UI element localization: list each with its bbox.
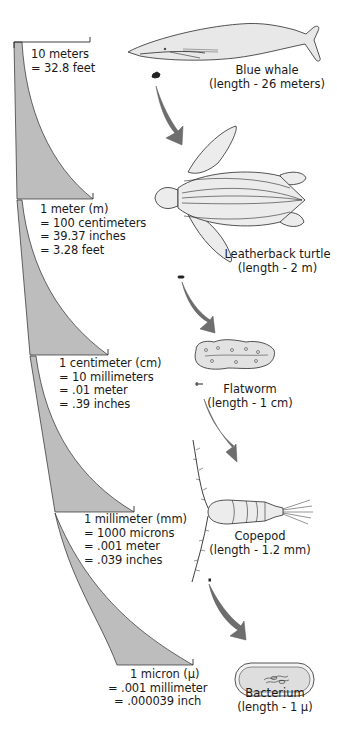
scale-label-10m: 10 meters = 32.8 feet bbox=[31, 48, 95, 75]
scale-label-line: 1 millimeter (mm) bbox=[84, 513, 187, 527]
mini-turtle-icon bbox=[152, 72, 160, 78]
organism-length: (length - 2 m) bbox=[220, 262, 335, 276]
mini-copepod-icon bbox=[195, 382, 203, 386]
flatworm-illustration bbox=[195, 340, 274, 370]
arrow-whale-to-turtle bbox=[156, 86, 183, 145]
scale-label-line: 1 centimeter (cm) bbox=[59, 357, 161, 371]
scaled-markers bbox=[152, 72, 210, 581]
caption-flatworm: Flatworm (length - 1 cm) bbox=[205, 383, 295, 410]
caption-blue-whale: Blue whale (length - 26 meters) bbox=[202, 64, 332, 91]
diagram-graphics bbox=[0, 0, 337, 730]
scale-label-1cm: 1 centimeter (cm) = 10 millimeters = .01… bbox=[59, 357, 161, 411]
arrow-turtle-to-flatworm bbox=[182, 282, 215, 333]
scale-label-line: = 10 millimeters bbox=[59, 371, 161, 385]
scale-label-line: = 32.8 feet bbox=[31, 62, 95, 76]
organism-length: (length - 1.2 mm) bbox=[205, 544, 315, 558]
copepod-illustration bbox=[192, 440, 313, 582]
leatherback-turtle-illustration bbox=[155, 126, 306, 262]
caption-leatherback-turtle: Leatherback turtle (length - 2 m) bbox=[220, 248, 335, 275]
scale-label-line: = .01 meter bbox=[59, 384, 161, 398]
mini-flatworm-icon bbox=[178, 276, 184, 278]
scale-label-line: = .001 millimeter bbox=[108, 682, 207, 696]
organism-length: (length - 1 μ) bbox=[230, 701, 320, 715]
organism-length: (length - 1 cm) bbox=[205, 397, 295, 411]
scale-label-line: = 39.37 inches bbox=[40, 230, 146, 244]
scale-label-line: 1 meter (m) bbox=[40, 203, 146, 217]
scale-label-line: = .001 meter bbox=[84, 540, 187, 554]
scale-label-line: = 1000 microns bbox=[84, 527, 187, 541]
scale-label-line: 10 meters bbox=[31, 48, 95, 62]
caption-copepod: Copepod (length - 1.2 mm) bbox=[205, 530, 315, 557]
scale-label-1m: 1 meter (m) = 100 centimeters = 39.37 in… bbox=[40, 203, 146, 257]
scale-label-1micron: 1 micron (μ) = .001 millimeter = .000039… bbox=[108, 668, 207, 709]
organism-name: Bacterium bbox=[230, 687, 320, 701]
scale-label-line: = .039 inches bbox=[84, 554, 187, 568]
organism-length: (length - 26 meters) bbox=[202, 78, 332, 92]
organism-name: Leatherback turtle bbox=[220, 248, 335, 262]
scale-label-line: = 3.28 feet bbox=[40, 244, 146, 258]
scale-wedges bbox=[14, 42, 193, 665]
scale-label-line: = .000039 inch bbox=[108, 695, 207, 709]
caption-bacterium: Bacterium (length - 1 μ) bbox=[230, 687, 320, 714]
organism-name: Blue whale bbox=[202, 64, 332, 78]
scale-label-1mm: 1 millimeter (mm) = 1000 microns = .001 … bbox=[84, 513, 187, 567]
size-scale-diagram: 10 meters = 32.8 feet 1 meter (m) = 100 … bbox=[0, 0, 337, 730]
organism-name: Copepod bbox=[205, 530, 315, 544]
blue-whale-illustration bbox=[128, 23, 320, 61]
scale-label-line: = .39 inches bbox=[59, 398, 161, 412]
mini-bacterium-icon bbox=[209, 579, 210, 581]
scale-label-line: 1 micron (μ) bbox=[108, 668, 207, 682]
scale-label-line: = 100 centimeters bbox=[40, 217, 146, 231]
organism-name: Flatworm bbox=[205, 383, 295, 397]
arrow-copepod-to-bacterium bbox=[209, 584, 246, 640]
